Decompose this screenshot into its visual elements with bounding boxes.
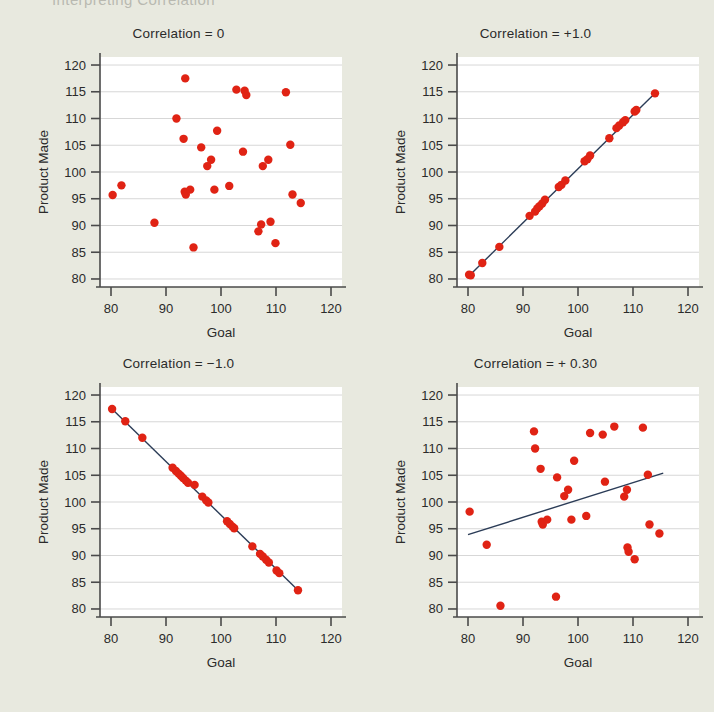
data-point [483,541,491,549]
data-point [210,185,218,193]
data-point [543,515,551,523]
y-tick-label: 105 [64,468,86,483]
data-point [553,473,561,481]
data-point [275,569,283,577]
data-point [181,74,189,82]
chart-panel-correlation-0: Correlation = 0 808590951001051101151208… [0,22,357,367]
y-tick-label: 110 [422,441,443,456]
page-root: Interpreting Correlation Correlation = 0… [0,0,714,712]
x-axis-label: Goal [207,325,236,340]
x-axis-label: Goal [207,655,236,670]
data-point [536,465,544,473]
data-point [271,239,279,247]
x-tick-label: 100 [567,631,589,646]
y-tick-label: 105 [64,138,86,153]
y-tick-label: 95 [72,191,86,206]
scatter-plot-1: 808590951001051101151208090100110120Goal… [357,22,714,367]
running-header: Interpreting Correlation [52,0,215,8]
y-tick-label: 120 [64,58,86,73]
data-point [225,182,233,190]
data-point [564,485,572,493]
data-point [655,529,663,537]
data-point [264,155,272,163]
data-point [150,219,158,227]
y-tick-label: 90 [429,548,443,563]
data-point [197,143,205,151]
chart-panel-correlation-plus-030: Correlation = + 0.30 8085909510010511011… [357,352,714,697]
y-tick-label: 100 [421,495,443,510]
x-tick-label: 110 [266,631,287,646]
x-tick-label: 90 [516,301,530,316]
data-point [586,429,594,437]
scatter-plot-0: 808590951001051101151208090100110120Goal… [0,22,357,367]
data-point [239,147,247,155]
data-point [586,151,594,159]
y-tick-label: 80 [72,271,86,286]
y-tick-label: 110 [65,441,86,456]
y-tick-label: 90 [72,548,86,563]
data-point [465,507,473,515]
x-tick-label: 80 [104,631,118,646]
data-point [582,512,590,520]
y-axis-label: Product Made [36,130,51,214]
x-tick-label: 120 [320,301,342,316]
y-tick-label: 115 [65,84,86,99]
data-point [552,592,560,600]
scatter-plot-3: 808590951001051101151208090100110120Goal… [357,352,714,697]
data-point [108,191,116,199]
x-tick-label: 100 [567,301,589,316]
y-tick-label: 115 [65,414,86,429]
y-tick-label: 100 [64,165,86,180]
data-point [541,196,549,204]
y-tick-label: 90 [429,218,443,233]
data-point [138,434,146,442]
data-point [630,555,638,563]
data-point [213,127,221,135]
x-tick-label: 90 [159,631,173,646]
chart-panel-correlation-minus-1: Correlation = −1.0 808590951001051101151… [0,352,357,697]
y-axis-label: Product Made [36,460,51,544]
x-axis-label: Goal [564,655,593,670]
data-point [207,155,215,163]
data-point [495,243,503,251]
data-point [530,427,538,435]
data-point [561,176,569,184]
data-point [531,444,539,452]
data-point [230,524,238,532]
data-point [189,243,197,251]
x-tick-label: 110 [623,631,644,646]
data-point [242,91,250,99]
data-point [204,498,212,506]
y-tick-label: 95 [429,521,443,536]
data-point [257,220,265,228]
data-point [248,542,256,550]
data-point [108,405,116,413]
y-tick-label: 105 [421,468,443,483]
y-tick-label: 115 [422,414,443,429]
data-point [621,116,629,124]
x-tick-label: 80 [461,301,475,316]
y-tick-label: 100 [64,495,86,510]
data-point [121,417,129,425]
y-tick-label: 85 [72,575,86,590]
y-tick-label: 110 [65,111,86,126]
data-point [286,141,294,149]
data-point [624,548,632,556]
y-tick-label: 95 [72,521,86,536]
y-axis-label: Product Made [393,130,408,214]
data-point [297,199,305,207]
data-point [623,485,631,493]
y-tick-label: 115 [422,84,443,99]
x-axis-label: Goal [564,325,593,340]
data-point [632,106,640,114]
x-tick-label: 120 [677,631,699,646]
x-tick-label: 120 [320,631,342,646]
data-point [282,88,290,96]
y-tick-label: 80 [429,271,443,286]
y-tick-label: 120 [421,388,443,403]
y-tick-label: 120 [64,388,86,403]
y-tick-label: 85 [429,575,443,590]
data-point [570,457,578,465]
x-tick-label: 80 [461,631,475,646]
data-point [645,520,653,528]
